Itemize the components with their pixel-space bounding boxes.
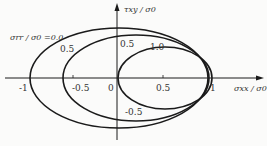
yield-ellipse-diagram: -1 -0.5 0 0.5 1 0.5 -0.5 σrr / σ0 =0.0 0…: [0, 0, 267, 146]
x-axis-label: σxx / σ0: [234, 84, 267, 93]
y-axis-label: τxy / σ0: [124, 5, 156, 14]
x-tick-label-1: 1: [210, 83, 216, 93]
curve-label-ratio-0-5: 0.5: [60, 44, 75, 54]
x-tick-label-zero: 0: [108, 83, 114, 93]
y-label-top-half: 0.5: [120, 39, 135, 49]
x-tick-label-neg-half: -0.5: [72, 83, 90, 93]
x-axis-arrow-icon: [256, 76, 264, 81]
diagram-canvas: -1 -0.5 0 0.5 1 0.5 -0.5 σrr / σ0 =0.0 0…: [0, 0, 267, 146]
y-label-bottom-half: -0.5: [125, 107, 143, 117]
curve-label-ratio-0: σrr / σ0 =0.0: [10, 33, 63, 42]
x-tick-label-half: 0.5: [156, 83, 171, 93]
x-tick-label-neg1: -1: [19, 83, 28, 93]
y-axis-arrow-icon: [115, 3, 120, 11]
curve-label-ratio-1-0: 1.0: [150, 42, 165, 52]
